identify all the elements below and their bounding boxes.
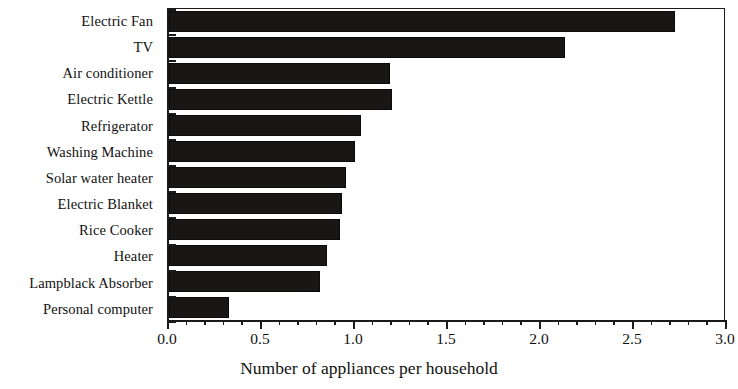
category-label: Air conditioner — [0, 60, 160, 86]
category-label: Solar water heater — [0, 165, 160, 191]
category-axis-tick — [169, 270, 176, 272]
category-label: TV — [0, 34, 160, 60]
category-axis-labels: Electric FanTVAir conditionerElectric Ke… — [0, 8, 160, 322]
x-axis-title: Number of appliances per household — [0, 360, 738, 378]
x-axis-minor-tick — [409, 320, 410, 325]
x-axis-tick-labels: 0.00.51.01.52.02.53.0 — [167, 331, 725, 353]
category-axis-tick — [169, 87, 176, 89]
x-axis-minor-tick — [651, 320, 652, 325]
bar — [169, 167, 346, 188]
x-axis-major-tick — [725, 320, 727, 329]
x-axis-minor-tick — [372, 320, 373, 325]
x-axis-minor-tick — [279, 320, 280, 325]
x-axis-minor-tick — [186, 320, 187, 325]
bar — [169, 141, 355, 162]
bar-row — [169, 242, 724, 268]
category-axis-tick — [169, 34, 176, 36]
category-axis-tick — [169, 113, 176, 115]
category-label: Electric Blanket — [0, 191, 160, 217]
category-axis-tick — [169, 60, 176, 62]
x-axis-minor-tick — [334, 320, 335, 325]
bar — [169, 245, 327, 266]
x-axis-minor-tick — [297, 320, 298, 325]
bar — [169, 193, 342, 214]
bar-row — [169, 113, 724, 139]
plot-area — [167, 8, 725, 322]
x-axis-tick-label: 0.5 — [250, 331, 269, 347]
x-axis-minor-tick — [595, 320, 596, 325]
x-axis-tick-label: 2.5 — [622, 331, 641, 347]
bar — [169, 115, 361, 136]
x-axis-minor-tick — [241, 320, 242, 325]
x-axis-major-tick — [353, 320, 355, 329]
bar — [169, 297, 229, 318]
category-label: Lampblack Absorber — [0, 270, 160, 296]
x-axis-tick-label: 1.5 — [436, 331, 455, 347]
x-axis-minor-tick — [316, 320, 317, 325]
bar-row — [169, 87, 724, 113]
x-axis-minor-tick — [502, 320, 503, 325]
category-axis-tick — [169, 296, 176, 298]
bar — [169, 89, 392, 110]
bar-series — [169, 9, 724, 320]
x-axis-minor-tick — [427, 320, 428, 325]
x-axis-minor-tick — [483, 320, 484, 325]
x-axis-major-tick — [446, 320, 448, 329]
category-label: Electric Fan — [0, 8, 160, 34]
bar-row — [169, 35, 724, 61]
category-label: Washing Machine — [0, 139, 160, 165]
category-axis-tick — [169, 217, 176, 219]
category-label: Refrigerator — [0, 113, 160, 139]
bar — [169, 271, 320, 292]
bar-row — [169, 165, 724, 191]
x-axis-tick-label: 3.0 — [715, 331, 734, 347]
x-axis-minor-tick — [706, 320, 707, 325]
x-axis-tick-label: 1.0 — [343, 331, 362, 347]
category-label: Personal computer — [0, 296, 160, 322]
x-axis-minor-tick — [520, 320, 521, 325]
x-axis-major-tick — [539, 320, 541, 329]
x-axis-minor-tick — [223, 320, 224, 325]
bar-row — [169, 268, 724, 294]
x-axis-minor-tick — [613, 320, 614, 325]
bar-row — [169, 139, 724, 165]
bar — [169, 11, 675, 32]
x-axis-major-tick — [260, 320, 262, 329]
bar-row — [169, 61, 724, 87]
x-axis-minor-tick — [688, 320, 689, 325]
x-axis-tick-label: 2.0 — [529, 331, 548, 347]
category-axis-tick — [169, 244, 176, 246]
bar-row — [169, 190, 724, 216]
x-axis-tick-label: 0.0 — [157, 331, 176, 347]
x-axis-minor-tick — [576, 320, 577, 325]
horizontal-bar-chart: Electric FanTVAir conditionerElectric Ke… — [0, 0, 738, 389]
category-label: Rice Cooker — [0, 217, 160, 243]
category-axis-tick — [169, 191, 176, 193]
x-axis-major-tick — [632, 320, 634, 329]
x-axis-minor-tick — [669, 320, 670, 325]
bar-row — [169, 294, 724, 320]
category-label: Heater — [0, 244, 160, 270]
bar-row — [169, 216, 724, 242]
bar — [169, 37, 565, 58]
x-axis-minor-tick — [558, 320, 559, 325]
category-label: Electric Kettle — [0, 87, 160, 113]
bar-row — [169, 9, 724, 35]
bar — [169, 219, 340, 240]
x-axis-major-tick — [167, 320, 169, 329]
bar — [169, 63, 390, 84]
x-axis-minor-tick — [390, 320, 391, 325]
category-axis-tick — [169, 139, 176, 141]
x-axis-minor-tick — [204, 320, 205, 325]
x-axis-minor-tick — [465, 320, 466, 325]
category-axis-tick — [169, 165, 176, 167]
category-axis-tick — [169, 9, 176, 11]
